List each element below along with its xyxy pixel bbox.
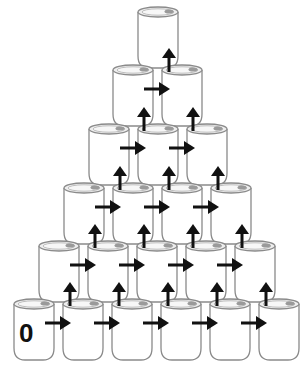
up-arrow-icon — [162, 166, 176, 190]
right-arrow-icon — [144, 200, 170, 214]
up-arrow-icon — [112, 282, 126, 306]
right-arrow-icon — [70, 258, 96, 272]
up-arrow-icon — [88, 224, 102, 248]
right-arrow-icon — [192, 316, 218, 330]
right-arrow-icon — [120, 141, 146, 155]
right-arrow-icon — [168, 258, 194, 272]
up-arrow-icon — [186, 107, 200, 131]
up-arrow-icon — [113, 166, 127, 190]
up-arrow-icon — [161, 282, 175, 306]
right-arrow-icon — [119, 258, 145, 272]
up-arrow-icon — [259, 282, 273, 306]
can-pyramid-diagram: 0 — [0, 0, 304, 374]
up-arrow-icon — [63, 282, 77, 306]
up-arrow-icon — [211, 166, 225, 190]
up-arrow-icon — [137, 107, 151, 131]
right-arrow-icon — [169, 141, 195, 155]
right-arrow-icon — [144, 82, 170, 96]
right-arrow-icon — [95, 200, 121, 214]
right-arrow-icon — [217, 258, 243, 272]
up-arrow-icon — [235, 224, 249, 248]
right-arrow-icon — [193, 200, 219, 214]
right-arrow-icon — [94, 316, 120, 330]
start-label: 0 — [19, 318, 33, 349]
right-arrow-icon — [45, 316, 71, 330]
up-arrow-icon — [186, 224, 200, 248]
up-arrow-icon — [162, 48, 176, 72]
up-arrow-icon — [210, 282, 224, 306]
right-arrow-icon — [241, 316, 267, 330]
right-arrow-icon — [143, 316, 169, 330]
up-arrow-icon — [137, 224, 151, 248]
